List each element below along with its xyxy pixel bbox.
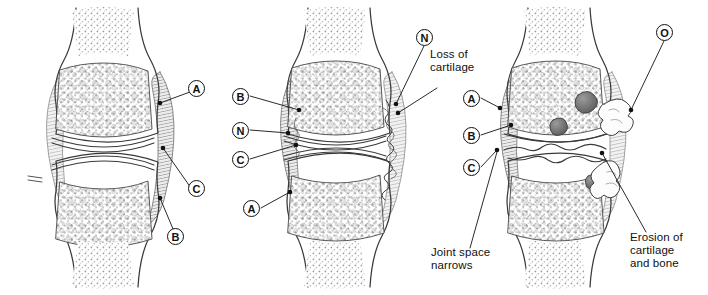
panel-severe-graphic: [500, 7, 633, 289]
marker-panel3-C[interactable]: C: [463, 159, 480, 176]
marker-panel3-A[interactable]: A: [463, 90, 480, 107]
annotation-erosion-of-cartilage-and-bone: Erosion of cartilage and bone: [630, 231, 683, 270]
marker-panel2-C[interactable]: C: [232, 151, 249, 168]
marker-panel1-C[interactable]: C: [188, 180, 205, 197]
marker-panel1-A[interactable]: A: [188, 80, 205, 97]
panel-normal-graphic: [28, 7, 174, 289]
joint-degeneration-figure: A C B B N C A N A B C O Loss of cartilag…: [0, 0, 708, 295]
annotation-loss-of-cartilage: Loss of cartilage: [430, 48, 474, 74]
marker-panel1-B[interactable]: B: [167, 228, 184, 245]
marker-panel2-N[interactable]: N: [232, 122, 249, 139]
marker-panel2-B[interactable]: B: [232, 88, 249, 105]
joint-illustration-svg: [0, 0, 708, 295]
marker-panel3-B[interactable]: B: [463, 127, 480, 144]
marker-panel2-N-top[interactable]: N: [416, 29, 433, 46]
annotation-joint-space-narrows: Joint space narrows: [431, 246, 490, 272]
marker-panel3-O[interactable]: O: [656, 24, 673, 41]
panel-moderate-graphic: [280, 7, 406, 289]
marker-panel2-A[interactable]: A: [243, 200, 260, 217]
